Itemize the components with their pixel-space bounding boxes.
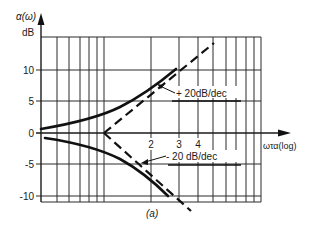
svg-text:10: 10 xyxy=(23,65,35,76)
bode-plot-figure: α(ω) dB ωτα(log) 10 5 0 -5 -10 2 3 4 + 2… xyxy=(0,0,314,229)
svg-text:3: 3 xyxy=(176,139,182,150)
svg-text:0: 0 xyxy=(28,128,34,139)
annotation-minus-20: - 20 dB/dec xyxy=(141,150,244,165)
y-axis xyxy=(38,13,45,202)
svg-text:2: 2 xyxy=(148,139,154,150)
annotation-minus-20-text: - 20 dB/dec xyxy=(166,151,217,162)
upper-exact-curve xyxy=(41,69,176,129)
y-axis-unit: dB xyxy=(22,27,35,38)
x-axis xyxy=(36,130,291,137)
x-tick-labels: 2 3 4 xyxy=(146,138,203,150)
annotation-plus-20: + 20dB/dec xyxy=(157,84,242,101)
figure-caption: (a) xyxy=(146,208,158,219)
y-axis-label: α(ω) xyxy=(16,11,36,22)
svg-text:-5: -5 xyxy=(25,159,34,170)
y-tick-labels: 10 5 0 -5 -10 xyxy=(20,65,35,202)
annotation-plus-20-text: + 20dB/dec xyxy=(176,88,227,99)
svg-text:5: 5 xyxy=(28,96,34,107)
y-axis-arrow-icon xyxy=(38,13,45,25)
x-axis-arrow-icon xyxy=(278,130,291,137)
bode-plot: α(ω) dB ωτα(log) 10 5 0 -5 -10 2 3 4 + 2… xyxy=(0,0,314,229)
x-axis-label: ωτα(log) xyxy=(263,141,297,151)
svg-text:4: 4 xyxy=(195,139,201,150)
svg-text:-10: -10 xyxy=(20,191,35,202)
